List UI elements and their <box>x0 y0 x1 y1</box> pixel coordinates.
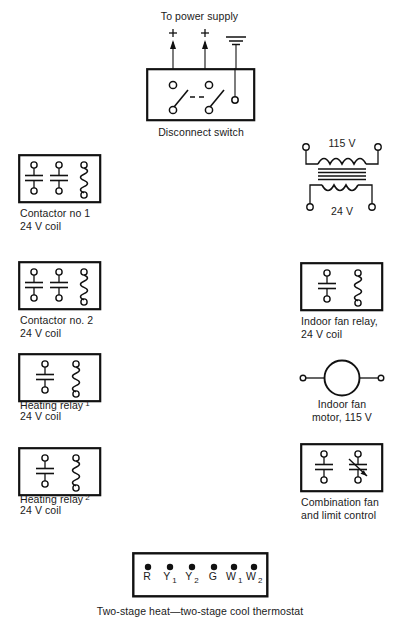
heating-relay-1-symbol <box>18 353 102 403</box>
thermostat-terminal-labels: R Y1 Y2 G W1 W2 <box>132 570 269 588</box>
wiring-diagram-page: To power supply <box>0 0 399 625</box>
thermostat-terminal-0-sub <box>151 576 153 585</box>
indoor-fan-motor-caption-line2: motor, 115 V <box>298 411 386 424</box>
power-supply-leads <box>160 28 260 70</box>
combination-control-caption-line2: and limit control <box>301 509 376 522</box>
thermostat-terminal-5: W2 <box>246 570 262 587</box>
plus-sign-left <box>169 29 177 37</box>
heating-relay-1-enclosure <box>19 354 100 401</box>
thermostat-terminal-2: Y2 <box>184 570 200 587</box>
motor-circle <box>325 361 360 396</box>
contactor-1-caption-line2: 24 V coil <box>20 220 61 233</box>
transformer-core <box>318 169 366 180</box>
arrow-head-1 <box>170 40 176 49</box>
transformer-primary-lead-left <box>306 151 318 165</box>
transformer-secondary-label: 24 V <box>314 205 370 218</box>
disconnect-switch-caption: Disconnect switch <box>152 126 250 139</box>
indoor-fan-relay-enclosure <box>301 263 382 310</box>
contactor-2-symbol <box>18 261 102 311</box>
indoor-fan-relay-caption-line2: 24 V coil <box>301 328 342 341</box>
thermostat-terminal-3-letter: G <box>209 570 217 582</box>
heating-relay-2-caption-line2: 24 V coil <box>20 504 61 517</box>
thermostat-terminal-4: W1 <box>226 570 242 587</box>
transformer-primary-terminal-left <box>303 144 309 150</box>
thermostat-terminal-4-sub: 1 <box>236 576 243 585</box>
contactor-2-caption-line2: 24 V coil <box>20 327 61 340</box>
thermostat-terminal-4-letter: W <box>226 570 236 582</box>
heating-relay-2-symbol <box>18 447 102 497</box>
indoor-fan-relay-caption-line1: Indoor fan relay, <box>301 315 378 328</box>
combination-control-caption-line1: Combination fan <box>301 496 379 509</box>
heating-relay-1-caption-superscript: 1 <box>83 399 90 408</box>
contactor-2-caption-line1: Contactor no. 2 <box>20 314 93 327</box>
power-supply-label: To power supply <box>152 10 247 23</box>
motor-terminal-right <box>378 375 384 381</box>
transformer-primary-label: 115 V <box>314 137 370 150</box>
transformer-primary-terminal-right <box>375 144 381 150</box>
thermostat-terminal-5-sub: 2 <box>256 576 263 585</box>
heating-relay-2-enclosure <box>19 448 100 495</box>
combination-fan-limit-control-symbol <box>300 443 384 493</box>
plus-sign-middle <box>201 29 209 37</box>
contactor-1-caption-line1: Contactor no 1 <box>20 207 90 220</box>
arrow-head-2 <box>202 40 208 49</box>
thermostat-terminal-3: G <box>206 570 222 587</box>
thermostat-terminal-2-sub: 2 <box>192 576 199 585</box>
thermostat-terminal-0-letter: R <box>143 570 151 582</box>
contactor-1-symbol <box>18 154 102 204</box>
indoor-fan-relay-symbol <box>300 262 384 312</box>
indoor-fan-motor-caption-line1: Indoor fan <box>298 398 386 411</box>
transformer-secondary-terminal-left <box>307 204 313 210</box>
thermostat-terminal-3-sub <box>217 576 219 585</box>
transformer-primary-lead-right <box>366 151 378 165</box>
heating-relay-1-caption-line2: 24 V coil <box>20 410 61 423</box>
heating-relay-1-caption-text: Heating relay <box>20 399 83 411</box>
transformer-secondary-winding <box>322 185 358 191</box>
thermostat-terminal-1-sub: 1 <box>170 576 177 585</box>
disconnect-switch-symbol <box>146 68 256 122</box>
transformer-secondary-lead-left <box>310 185 322 204</box>
heating-relay-2-caption-superscript: 2 <box>83 493 90 502</box>
ground-icon <box>226 37 246 45</box>
thermostat-terminal-5-letter: W <box>246 570 256 582</box>
heating-relay-2-caption-text: Heating relay <box>20 493 83 505</box>
thermostat-caption: Two-stage heat—two-stage cool thermostat <box>90 605 310 618</box>
thermostat-terminal-1: Y1 <box>162 570 178 587</box>
motor-terminal-left <box>300 375 306 381</box>
transformer-secondary-lead-right <box>358 185 372 204</box>
disconnect-switch-enclosure <box>147 69 254 120</box>
indoor-fan-motor-symbol <box>298 358 386 398</box>
transformer-primary-winding <box>318 159 366 165</box>
combination-control-enclosure <box>301 444 382 491</box>
thermostat-terminal-0: R <box>140 570 156 587</box>
